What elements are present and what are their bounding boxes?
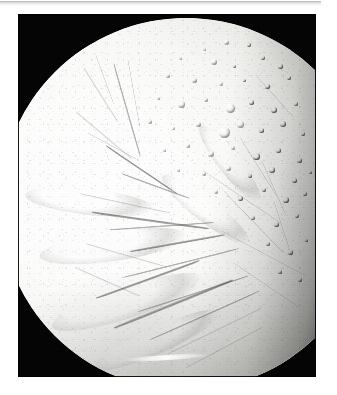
page-background: Grayscale spacecraft photograph of the i… <box>0 0 337 395</box>
film-grain-overlay <box>18 14 316 377</box>
enceladus-photograph[interactable]: Grayscale spacecraft photograph of the i… <box>18 14 316 377</box>
photo-black-matte <box>18 14 316 377</box>
page-top-divider-fade <box>0 3 321 6</box>
